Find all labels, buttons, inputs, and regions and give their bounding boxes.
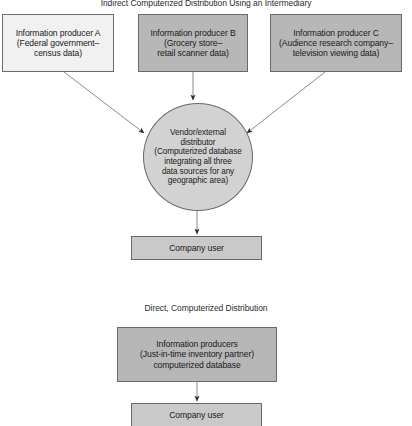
edge-producer-a-to-vendor <box>64 72 144 133</box>
node-company-user-1[interactable]: Company user <box>131 236 262 260</box>
node-information-producers-jit-label: Information producers(Just-in-time inven… <box>137 339 257 369</box>
node-vendor-distributor[interactable]: Vendor/externaldistributor(Computerized … <box>143 103 253 211</box>
node-vendor-distributor-label: Vendor/externaldistributor(Computerized … <box>151 128 244 186</box>
node-company-user-1-label: Company user <box>166 243 227 253</box>
node-producer-c[interactable]: Information producer C(Audience research… <box>270 14 402 72</box>
node-producer-a[interactable]: Information producer A(Federal governmen… <box>2 14 114 72</box>
section-title-indirect: Indirect Computerized Distribution Using… <box>0 0 412 8</box>
node-producer-b[interactable]: Information producer B(Grocery store–ret… <box>138 14 248 72</box>
node-company-user-2-label: Company user <box>166 410 227 420</box>
node-producer-a-label: Information producer A(Federal governmen… <box>13 28 104 58</box>
node-producer-b-label: Information producer B(Grocery store–ret… <box>147 28 238 58</box>
diagram-canvas: Indirect Computerized Distribution Using… <box>0 0 412 426</box>
section-title-direct: Direct, Computerized Distribution <box>0 303 412 313</box>
node-producer-c-label: Information producer C(Audience research… <box>276 28 396 58</box>
edge-producer-c-to-vendor <box>247 72 325 133</box>
node-company-user-2[interactable]: Company user <box>131 403 262 426</box>
node-information-producers-jit[interactable]: Information producers(Just-in-time inven… <box>117 327 277 382</box>
